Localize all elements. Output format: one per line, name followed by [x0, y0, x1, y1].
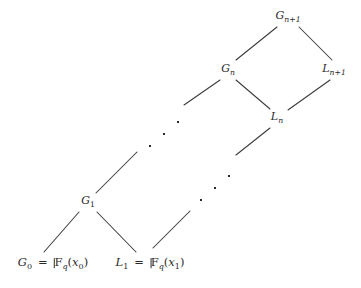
node-gn: Gn — [221, 63, 235, 76]
node-l1: L1 = Fq(x1) — [116, 257, 185, 271]
node-g0: G0 = Fq(x0) — [18, 257, 88, 271]
node-subscript: n — [278, 116, 283, 125]
edge-g0-g1 — [44, 212, 79, 252]
node-subscript: 1 — [90, 200, 95, 209]
equals-sign: = — [32, 255, 54, 269]
edge-ln1-ln — [288, 80, 330, 110]
edge-gn-ln — [236, 80, 270, 109]
edge-g1-l1 — [97, 212, 136, 252]
ellipsis-dot — [214, 187, 216, 189]
edge-gn1-ln1 — [299, 27, 332, 60]
edge-ellipsis2-ln — [236, 128, 270, 155]
ellipsis-dot — [149, 145, 151, 147]
blackboard-f-icon: F — [150, 257, 159, 269]
node-variable: G — [221, 62, 230, 75]
edge-g1-upper — [96, 152, 137, 193]
node-g1: G1 — [81, 195, 95, 208]
close-paren: ) — [84, 255, 89, 269]
edge-layer — [0, 0, 361, 288]
close-paren: ) — [180, 255, 185, 269]
blackboard-f-icon: F — [54, 257, 63, 269]
node-subscript: n+1 — [330, 68, 346, 77]
node-subscript: n — [230, 68, 235, 77]
node-variable: L — [116, 255, 124, 269]
node-gn-plus-1: Gn+1 — [275, 10, 300, 23]
ellipsis-dot — [228, 175, 230, 177]
node-subscript: n+1 — [284, 15, 300, 24]
node-subscript: 1 — [123, 262, 128, 271]
edges-group — [44, 27, 332, 252]
equals-sign: = — [128, 255, 150, 269]
edge-gn-gn1 — [236, 27, 277, 60]
node-ln: Ln — [271, 111, 283, 124]
node-variable: G — [81, 194, 90, 207]
lattice-diagram: G0 = Fq(x0)L1 = Fq(x1)G1GnLnGn+1Ln+1 — [0, 0, 361, 288]
node-variable: G — [18, 255, 27, 269]
ellipsis-dot — [200, 199, 202, 201]
ellipsis-dot — [177, 121, 179, 123]
ellipsis-dot — [163, 133, 165, 135]
node-ln-plus-1: Ln+1 — [322, 63, 346, 76]
edge-ellipsis1-gn — [184, 80, 220, 105]
edge-l1-upper — [153, 211, 190, 248]
node-variable: G — [275, 9, 284, 22]
